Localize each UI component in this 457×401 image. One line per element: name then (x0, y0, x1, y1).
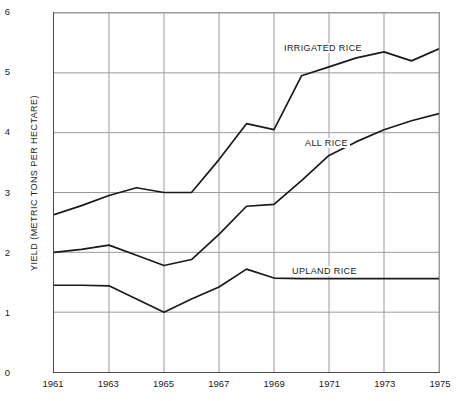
series-label-all-rice: ALL RICE (303, 138, 350, 148)
x-tick-1971: 1971 (299, 378, 359, 389)
x-tick-1973: 1973 (355, 378, 415, 389)
series-lines (54, 49, 439, 312)
y-tick-3: 3 (0, 187, 10, 198)
plot-svg (54, 13, 439, 372)
y-tick-1: 1 (0, 307, 10, 318)
y-tick-4: 4 (0, 126, 10, 137)
y-tick-6: 6 (0, 6, 10, 17)
series-line-upland-rice (54, 269, 439, 312)
x-tick-1963: 1963 (78, 378, 138, 389)
x-tick-1967: 1967 (189, 378, 249, 389)
series-label-upland-rice: UPLAND RICE (290, 266, 359, 276)
series-label-irrigated-rice: IRRIGATED RICE (282, 43, 364, 53)
plot-area (53, 12, 440, 373)
y-tick-5: 5 (0, 66, 10, 77)
gridlines (54, 13, 439, 372)
chart-root: YIELD (METRIC TONS PER HECTARE) 0123456 … (0, 0, 457, 401)
x-tick-1965: 1965 (134, 378, 194, 389)
y-tick-0: 0 (0, 367, 10, 378)
y-tick-2: 2 (0, 247, 10, 258)
y-axis-title: YIELD (METRIC TONS PER HECTARE) (29, 53, 39, 313)
series-line-all-rice (54, 114, 439, 266)
x-tick-1975: 1975 (410, 378, 457, 389)
x-tick-1969: 1969 (244, 378, 304, 389)
x-tick-1961: 1961 (23, 378, 83, 389)
